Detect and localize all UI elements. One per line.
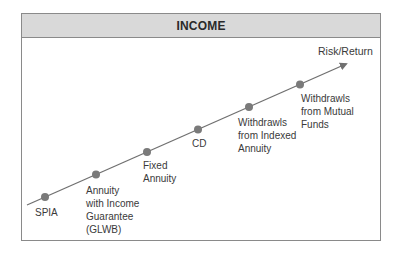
dot-mutual-funds — [296, 81, 304, 89]
dot-cd — [194, 126, 202, 134]
risk-return-label: Risk/Return — [318, 45, 373, 57]
label-indexed-annuity: Withdrawls from Indexed Annuity — [238, 116, 296, 155]
label-fixed-annuity: Fixed Annuity — [143, 159, 176, 185]
dot-spia — [41, 193, 49, 201]
label-spia: SPIA — [35, 206, 58, 219]
dot-indexed-annuity — [245, 103, 253, 111]
label-mutual-funds: Withdrawls from Mutual Funds — [301, 92, 354, 131]
label-annuity-income-guarantee: Annuity with Income Guarantee (GLWB) — [86, 184, 139, 236]
dot-fixed-annuity — [143, 148, 151, 156]
label-cd: CD — [192, 137, 206, 150]
dot-annuity-income-guarantee — [92, 171, 100, 179]
